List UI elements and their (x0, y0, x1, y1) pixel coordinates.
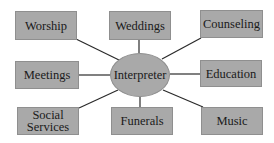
node-weddings: Weddings (109, 11, 171, 40)
node-counseling: Counseling (200, 10, 263, 38)
node-label: Weddings (115, 20, 165, 32)
node-label: Meetings (24, 69, 71, 81)
node-label-line-2: Services (27, 121, 69, 133)
center-node-interpreter: Interpreter (110, 53, 170, 97)
node-label: Education (206, 68, 257, 80)
node-label: Music (216, 115, 247, 127)
node-social-services: Social Services (17, 107, 79, 135)
node-funerals: Funerals (111, 107, 173, 135)
node-label: Funerals (120, 115, 163, 127)
center-label: Interpreter (114, 68, 167, 83)
node-education: Education (200, 60, 262, 87)
node-label: Counseling (203, 18, 260, 30)
node-meetings: Meetings (15, 61, 79, 89)
node-music: Music (201, 107, 263, 135)
node-label: Worship (25, 20, 67, 32)
node-worship: Worship (15, 11, 77, 40)
